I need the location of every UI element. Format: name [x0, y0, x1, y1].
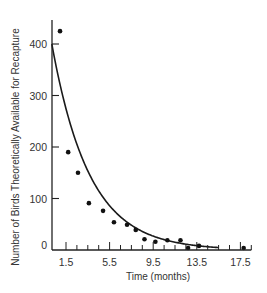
- data-point: [58, 29, 63, 34]
- data-point: [66, 150, 71, 155]
- data-point: [112, 220, 117, 225]
- data-point: [142, 237, 147, 242]
- x-tick-label: 9.5: [146, 256, 161, 268]
- y-tick-label: 200: [29, 141, 47, 153]
- data-point: [133, 228, 138, 233]
- plot-area: [52, 29, 246, 250]
- y-tick-label: 400: [29, 38, 47, 50]
- decay-curve: [52, 44, 219, 248]
- data-point: [197, 244, 202, 249]
- x-tick-label: 13.5: [187, 256, 208, 268]
- chart: 01002003004001.55.59.513.517.5 Time (mon…: [0, 0, 267, 293]
- x-tick-label: 5.5: [102, 256, 117, 268]
- data-point: [178, 238, 183, 243]
- data-point: [101, 209, 106, 214]
- y-tick-label: 300: [29, 90, 47, 102]
- data-point: [153, 239, 158, 244]
- y-axis-title: Number of Birds Theoretically Available …: [10, 28, 21, 266]
- data-point: [87, 201, 92, 206]
- x-tick-label: 17.5: [230, 256, 251, 268]
- data-point: [125, 222, 130, 227]
- data-point: [76, 170, 81, 175]
- data-point: [165, 238, 170, 243]
- x-axis-title: Time (months): [126, 271, 190, 282]
- y-tick-label: 100: [29, 193, 47, 205]
- y-tick-label: 0: [41, 239, 47, 251]
- x-tick-label: 1.5: [59, 256, 74, 268]
